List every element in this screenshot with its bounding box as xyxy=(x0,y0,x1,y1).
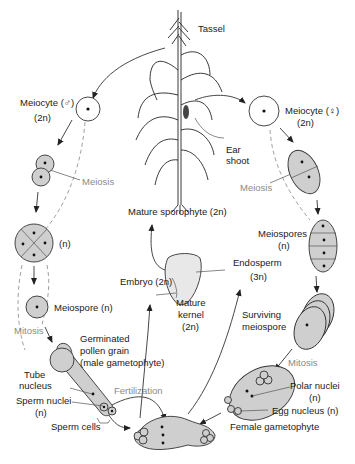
arrow-kernel-to-sporophyte xyxy=(151,225,165,270)
male-meiospore xyxy=(26,296,48,318)
label-meiocyte-female-ploidy: (2n) xyxy=(297,117,314,128)
label-mitosis-left: Mitosis xyxy=(14,325,44,336)
label-sperm-nuclei: Sperm nuclei xyxy=(16,395,71,406)
label-mature-sporophyte: Mature sporophyte (2n) xyxy=(128,206,227,217)
ear-shoot-icon xyxy=(183,105,189,119)
arrow-f2 xyxy=(317,200,318,214)
label-fertilization: Fertilization xyxy=(114,385,163,396)
meiosis-band-left xyxy=(45,122,85,230)
label-meiospores: Meiospores xyxy=(258,228,307,239)
label-meiosis-left: Meiosis xyxy=(82,176,114,187)
label-female-gametophyte: Female gametophyte xyxy=(230,421,319,432)
label-surviving-1: Surviving xyxy=(242,309,281,320)
label-mature-kernel-1: Mature xyxy=(176,297,206,308)
label-endosperm: Endosperm xyxy=(233,257,282,268)
arrow-ear-to-meiocyte xyxy=(195,95,245,103)
arrow-m2 xyxy=(36,192,38,212)
label-sperm-cells: Sperm cells xyxy=(51,421,101,432)
label-polar-nuclei-ploidy: (n) xyxy=(309,392,321,403)
female-meiospores xyxy=(309,220,337,272)
label-meiospore-male: Meiospore (n) xyxy=(54,302,113,313)
label-tetrad-ploidy: (n) xyxy=(59,238,71,249)
female-dyad xyxy=(282,145,327,199)
label-mature-kernel-2: kernel xyxy=(178,309,204,320)
label-meiosis-right: Meiosis xyxy=(240,182,272,193)
label-pollen-3: (male gametophyte) xyxy=(80,357,164,368)
label-egg-nucleus: Egg nucleus (n) xyxy=(272,405,339,416)
arrow-mitosis-left xyxy=(45,327,52,342)
label-endosperm-ploidy: (3n) xyxy=(250,271,267,282)
label-shoot: shoot xyxy=(226,155,250,166)
surviving-meiospore xyxy=(288,289,339,354)
label-meiocyte-female: Meiocyte (♀) xyxy=(285,105,339,116)
label-embryo: Embryo (2n) xyxy=(120,276,172,287)
corn-plant-illustration xyxy=(136,10,222,214)
label-polar-nuclei: Polar nuclei xyxy=(290,380,340,391)
label-mitosis-right: Mitosis xyxy=(288,357,318,368)
arrow-female-to-zygote xyxy=(200,413,221,424)
male-tetrad xyxy=(15,224,53,262)
male-meiocyte xyxy=(76,97,100,121)
arrow-f3 xyxy=(316,276,317,292)
label-tube-nucleus-2: nucleus xyxy=(19,380,52,391)
arrow-m1 xyxy=(58,120,72,145)
label-mature-kernel-3: (2n) xyxy=(182,321,199,332)
label-pollen-1: Germinated xyxy=(80,333,130,344)
male-dyad xyxy=(32,155,54,186)
label-tassel: Tassel xyxy=(198,23,225,34)
female-meiocyte xyxy=(249,96,279,126)
label-surviving-2: meiospore xyxy=(242,321,286,332)
label-ear: Ear xyxy=(226,144,241,155)
maize-life-cycle-diagram: Tassel Meiocyte (♂) (2n) Meiocyte (♀) (2… xyxy=(0,0,355,464)
embryo-sac xyxy=(134,416,215,449)
arrow-f1 xyxy=(280,128,293,142)
label-meiospores-ploidy: (n) xyxy=(278,240,290,251)
ear-shoot-leader xyxy=(195,118,224,138)
label-meiocyte-male-ploidy: (2n) xyxy=(34,112,51,123)
label-meiocyte-male: Meiocyte (♂) xyxy=(20,97,74,108)
label-tube-nucleus-1: Tube xyxy=(24,369,45,380)
arrow-tassel-to-meiocyte xyxy=(93,48,165,98)
label-pollen-2: pollen grain xyxy=(80,345,129,356)
arrow-sperm-to-polar xyxy=(110,397,165,420)
label-sperm-nuclei-ploidy: (n) xyxy=(35,407,47,418)
